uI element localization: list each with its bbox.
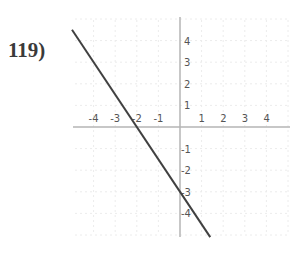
x-tick-label: 4 xyxy=(263,113,269,124)
y-tick-label: 4 xyxy=(184,36,190,47)
x-tick-labels: -4-3-2-11234 xyxy=(89,113,270,124)
coordinate-plane: -4-3-2-11234 4321-1-2-3-4 xyxy=(0,0,304,254)
x-tick-label: 3 xyxy=(242,113,248,124)
y-tick-label: -2 xyxy=(181,165,191,176)
y-tick-label: -4 xyxy=(181,208,191,219)
y-tick-label: 3 xyxy=(184,57,190,68)
x-tick-label: -1 xyxy=(153,113,163,124)
y-tick-label: 2 xyxy=(184,79,190,90)
y-tick-label: -1 xyxy=(181,144,191,155)
x-tick-label: -4 xyxy=(89,113,99,124)
x-tick-label: -3 xyxy=(110,113,120,124)
x-tick-label: 2 xyxy=(220,113,226,124)
y-tick-label: 1 xyxy=(184,100,190,111)
x-tick-label: 1 xyxy=(199,113,205,124)
